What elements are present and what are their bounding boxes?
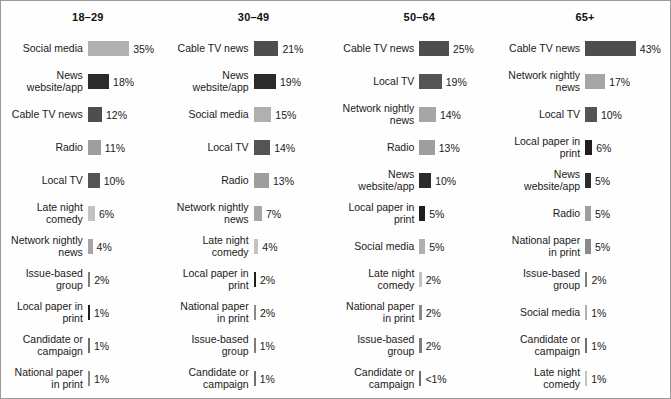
- chart-columns: 18–29Social media35%News website/app18%C…: [1, 1, 670, 398]
- bar-row: Cable TV news21%: [171, 32, 337, 65]
- bar-row: News website/app10%: [337, 164, 503, 197]
- bar-row: Issue-based group2%: [502, 263, 668, 296]
- bar-row-label: Social media: [337, 241, 420, 253]
- bar-wrap: <1%: [419, 371, 502, 386]
- bar-row: Social media1%: [502, 296, 668, 329]
- bar-value-label: 2%: [422, 307, 441, 319]
- bar-value-label: 2%: [256, 274, 275, 286]
- bar-row-label: Candidate or campaign: [502, 334, 585, 357]
- bar-rows: Cable TV news25%Local TV19%Network night…: [337, 32, 503, 398]
- bar-row-label: Radio: [171, 175, 254, 187]
- bar-row-label: Late night comedy: [5, 202, 88, 225]
- bar-row: Local TV19%: [337, 65, 503, 98]
- bar-wrap: 2%: [585, 272, 668, 287]
- bar-row-label: Issue-based group: [171, 334, 254, 357]
- bar-row: Candidate or campaign1%: [502, 329, 668, 362]
- bar: [585, 74, 605, 89]
- bar-row: Local paper in print2%: [171, 263, 337, 296]
- bar-row-label: Radio: [337, 142, 420, 154]
- bar: [419, 41, 449, 56]
- bar-wrap: 2%: [254, 272, 337, 287]
- bar-row: Local paper in print1%: [5, 296, 171, 329]
- bar-row: Network nightly news7%: [171, 197, 337, 230]
- bar-row-label: Network nightly news: [337, 103, 420, 126]
- bar-value-label: 25%: [449, 43, 474, 55]
- bar-row: Network nightly news4%: [5, 230, 171, 263]
- bar-wrap: 19%: [419, 74, 502, 89]
- bar-row: Late night comedy2%: [337, 263, 503, 296]
- bar-value-label: 1%: [587, 373, 606, 385]
- bar: [88, 41, 129, 56]
- bar-row-label: Local paper in print: [171, 268, 254, 291]
- bar-wrap: 13%: [419, 140, 502, 155]
- bar-wrap: 1%: [585, 371, 668, 386]
- bar-row: News website/app18%: [5, 65, 171, 98]
- bar-wrap: 10%: [88, 173, 171, 188]
- bar-row: News website/app5%: [502, 164, 668, 197]
- bar-row-label: National paper in print: [171, 301, 254, 324]
- bar-wrap: 5%: [419, 206, 502, 221]
- bar-row-label: Cable TV news: [5, 109, 88, 121]
- bar-value-label: 1%: [90, 340, 109, 352]
- bar: [254, 107, 272, 122]
- bar-row: News website/app19%: [171, 65, 337, 98]
- bar-wrap: 1%: [88, 305, 171, 320]
- bar-row-label: National paper in print: [5, 367, 88, 390]
- bar-wrap: 17%: [585, 74, 668, 89]
- bar-wrap: 1%: [585, 305, 668, 320]
- bar-row: Cable TV news43%: [502, 32, 668, 65]
- bar-value-label: 7%: [262, 208, 281, 220]
- bar-row-label: Local TV: [171, 142, 254, 154]
- bar-row-label: Network nightly news: [171, 202, 254, 225]
- bar-row: Issue-based group2%: [5, 263, 171, 296]
- bar-row-label: Cable TV news: [337, 43, 420, 55]
- bar-wrap: 7%: [254, 206, 337, 221]
- bar-row: Local paper in print6%: [502, 131, 668, 164]
- bar-row: National paper in print2%: [337, 296, 503, 329]
- bar-row-label: Issue-based group: [502, 268, 585, 291]
- bar-row: Radio11%: [5, 131, 171, 164]
- bar: [419, 140, 434, 155]
- bar-row-label: Late night comedy: [171, 235, 254, 258]
- bar-rows: Social media35%News website/app18%Cable …: [5, 32, 171, 398]
- bar-row-label: Local TV: [502, 109, 585, 121]
- bar-row: Local TV10%: [5, 164, 171, 197]
- bar-row-label: Local TV: [337, 76, 420, 88]
- bar-row: Late night comedy6%: [5, 197, 171, 230]
- bar-row: Network nightly news17%: [502, 65, 668, 98]
- bar-value-label: 5%: [591, 208, 610, 220]
- bar-value-label: 18%: [109, 76, 134, 88]
- bar-row-label: Local paper in print: [502, 136, 585, 159]
- bar-row-label: Candidate or campaign: [5, 334, 88, 357]
- bar-row: National paper in print1%: [5, 362, 171, 395]
- bar: [254, 140, 271, 155]
- bar-value-label: 5%: [425, 241, 444, 253]
- bar-value-label: 10%: [431, 175, 456, 187]
- bar: [254, 74, 276, 89]
- bar-wrap: 1%: [585, 338, 668, 353]
- bar: [88, 74, 109, 89]
- bar-value-label: 21%: [278, 43, 303, 55]
- bar-row: Issue-based group2%: [337, 329, 503, 362]
- bar-value-label: 19%: [442, 76, 467, 88]
- bar-value-label: 1%: [587, 307, 606, 319]
- bar-row-label: Issue-based group: [5, 268, 88, 291]
- bar: [585, 41, 636, 56]
- chart-column-30-49: 30–49Cable TV news21%News website/app19%…: [171, 7, 337, 398]
- bar-row-label: Network nightly news: [502, 70, 585, 93]
- bar: [254, 206, 262, 221]
- bar-wrap: 13%: [254, 173, 337, 188]
- bar-wrap: 2%: [419, 272, 502, 287]
- bar-row: Cable TV news12%: [5, 98, 171, 131]
- bar-row: Network nightly news14%: [337, 98, 503, 131]
- bar-row-label: Candidate or campaign: [337, 367, 420, 390]
- bar-wrap: 10%: [585, 107, 668, 122]
- bar-value-label: 4%: [93, 241, 112, 253]
- bar-wrap: 1%: [254, 338, 337, 353]
- bar-row: Candidate or campaign1%: [5, 329, 171, 362]
- bar-value-label: 12%: [102, 109, 127, 121]
- bar-value-label: 2%: [90, 274, 109, 286]
- bar-row-label: News website/app: [171, 70, 254, 93]
- bar-wrap: 1%: [88, 338, 171, 353]
- bar-row-label: News website/app: [502, 169, 585, 192]
